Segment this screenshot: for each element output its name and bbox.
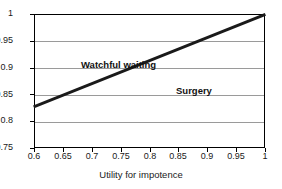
y-axis-tick-label: 0.75: [0, 143, 13, 152]
threshold-line-series: [35, 15, 264, 147]
region-label-surgery: Surgery: [176, 85, 212, 96]
x-axis-title: Utility for impotence: [0, 169, 282, 180]
y-axis-tick-label: 0.9: [0, 63, 13, 72]
y-axis-tick-label: 0.8: [0, 116, 13, 125]
y-axis-tick-label: 1: [0, 9, 13, 18]
y-axis-tick-label: 0.95: [0, 36, 13, 45]
plot-area: Watchful waiting Surgery: [34, 14, 265, 148]
x-axis-tick-label: 1: [245, 152, 282, 161]
y-axis-tick-label: 0.85: [0, 90, 13, 99]
chart-container: 1 0.95 0.9 0.85 0.8 0.75 Watchful waitin…: [0, 0, 282, 189]
region-label-watchful-waiting: Watchful waiting: [81, 59, 156, 70]
